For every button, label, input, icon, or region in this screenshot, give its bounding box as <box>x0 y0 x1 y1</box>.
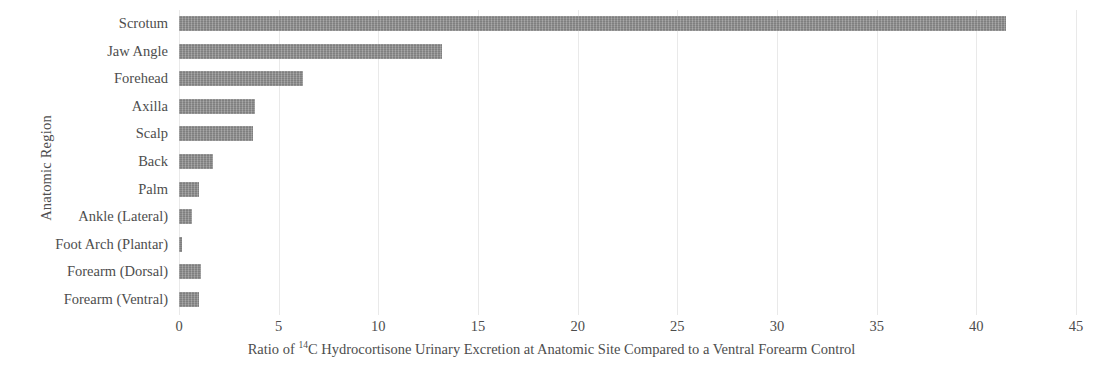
bar <box>179 182 199 197</box>
category-label: Back <box>0 148 174 176</box>
x-axis-title-suffix: C Hydrocortisone Urinary Excretion at An… <box>308 341 855 357</box>
x-tick-label: 0 <box>175 318 182 335</box>
plot-area <box>179 10 1076 315</box>
x-tick-label: 45 <box>1069 318 1084 335</box>
category-label: Palm <box>0 176 174 204</box>
bar-row <box>179 286 1076 314</box>
category-label-list: ScrotumJaw AngleForeheadAxillaScalpBackP… <box>0 10 174 315</box>
x-tick-label: 20 <box>570 318 585 335</box>
category-label: Ankle (Lateral) <box>0 203 174 231</box>
x-tick-label: 25 <box>670 318 685 335</box>
x-tick-label: 30 <box>770 318 785 335</box>
bar <box>179 126 253 141</box>
bar <box>179 71 303 86</box>
bar <box>179 264 201 279</box>
gridline-45 <box>1076 10 1077 315</box>
category-label: Forearm (Dorsal) <box>0 258 174 286</box>
x-tick-label: 35 <box>869 318 884 335</box>
bar-row <box>179 65 1076 93</box>
bar-row <box>179 258 1076 286</box>
category-label: Scalp <box>0 120 174 148</box>
x-tick-label: 15 <box>471 318 486 335</box>
x-axis-title-prefix: Ratio of <box>248 341 299 357</box>
bar <box>179 44 442 59</box>
bar <box>179 209 192 224</box>
bar-row <box>179 93 1076 121</box>
category-label: Foot Arch (Plantar) <box>0 231 174 259</box>
bar-row <box>179 38 1076 66</box>
bar-row <box>179 203 1076 231</box>
x-axis-tick-labels: 051015202530354045 <box>179 318 1076 338</box>
bar <box>179 292 199 307</box>
x-axis-title: Ratio of 14C Hydrocortisone Urinary Excr… <box>0 341 1103 358</box>
bar <box>179 99 255 114</box>
category-label: Scrotum <box>0 10 174 38</box>
x-tick-label: 10 <box>371 318 386 335</box>
bar-row <box>179 231 1076 259</box>
category-label: Forehead <box>0 65 174 93</box>
category-label: Axilla <box>0 93 174 121</box>
bar <box>179 154 213 169</box>
category-label: Forearm (Ventral) <box>0 286 174 314</box>
bar-row <box>179 176 1076 204</box>
bar <box>179 16 1006 31</box>
bar-row <box>179 120 1076 148</box>
category-label: Jaw Angle <box>0 38 174 66</box>
x-tick-label: 40 <box>969 318 984 335</box>
x-tick-label: 5 <box>275 318 282 335</box>
bar-row <box>179 148 1076 176</box>
bar-chart: Anatomic Region ScrotumJaw AngleForehead… <box>0 0 1103 376</box>
x-axis-title-superscript: 14 <box>298 340 308 350</box>
bar-row <box>179 10 1076 38</box>
bar <box>179 237 182 252</box>
